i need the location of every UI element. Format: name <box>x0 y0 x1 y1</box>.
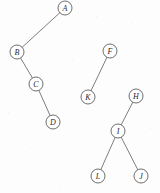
node-label-f: F <box>107 47 113 56</box>
tree-node-j[interactable]: J <box>134 169 148 183</box>
tree-edge-i-l <box>101 137 115 169</box>
node-label-k: K <box>84 93 91 102</box>
tree-node-k[interactable]: K <box>81 90 95 104</box>
node-label-b: B <box>15 48 20 57</box>
tree-node-f[interactable]: F <box>103 44 117 58</box>
tree-edge-i-j <box>121 137 138 170</box>
tree-diagram-figure: ABCDFKHILJ <box>0 0 160 193</box>
tree-edge-a-b <box>22 13 60 48</box>
node-label-c: C <box>33 80 39 89</box>
tree-node-c[interactable]: C <box>29 77 43 91</box>
tree-edge-f-k <box>91 57 107 90</box>
tree-node-d[interactable]: D <box>46 115 60 129</box>
tree-edge-c-d <box>39 90 50 115</box>
tree-diagram-canvas: ABCDFKHILJ <box>0 0 160 193</box>
node-label-i: I <box>116 127 120 136</box>
node-label-d: D <box>49 118 56 127</box>
tree-edge-b-c <box>21 58 33 78</box>
tree-node-a[interactable]: A <box>58 1 72 15</box>
node-layer: ABCDFKHILJ <box>10 1 148 183</box>
node-label-l: L <box>95 172 101 181</box>
edge-layer <box>21 13 138 170</box>
node-label-j: J <box>139 172 143 181</box>
node-label-a: A <box>62 4 68 13</box>
tree-edge-h-i <box>121 102 133 125</box>
tree-node-h[interactable]: H <box>129 89 143 103</box>
tree-node-l[interactable]: L <box>91 169 105 183</box>
tree-node-b[interactable]: B <box>10 45 24 59</box>
tree-node-i[interactable]: I <box>111 124 125 138</box>
